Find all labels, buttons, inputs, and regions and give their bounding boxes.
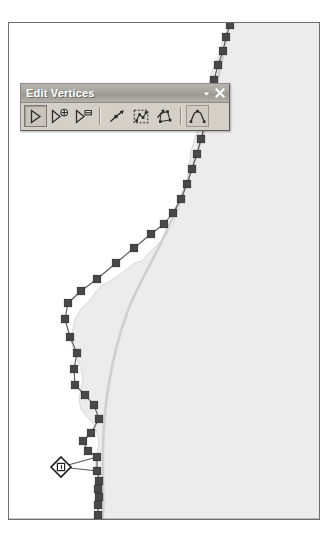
vertex-handle[interactable] bbox=[193, 150, 200, 157]
toolbar-title: Edit Vertices bbox=[26, 84, 199, 102]
vertex-handle[interactable] bbox=[95, 477, 102, 484]
add-vertex-button[interactable] bbox=[48, 105, 71, 127]
vertex-handle[interactable] bbox=[95, 493, 102, 500]
close-icon[interactable] bbox=[213, 86, 227, 100]
delete-selected-vertices-button[interactable] bbox=[153, 105, 176, 127]
arrow-plus-icon bbox=[50, 108, 69, 125]
edit-vertices-toolbar[interactable]: Edit Vertices bbox=[20, 83, 230, 131]
vertex-handle[interactable] bbox=[79, 437, 86, 444]
vertex-handle[interactable] bbox=[73, 349, 80, 356]
delete-vertex-button[interactable] bbox=[72, 105, 95, 127]
vertex-handle[interactable] bbox=[222, 33, 229, 40]
delete-selected-vertices-icon bbox=[156, 108, 174, 125]
vertex-handle[interactable] bbox=[160, 220, 167, 227]
vertex-handle[interactable] bbox=[94, 501, 101, 508]
arrow-cursor-icon bbox=[27, 108, 44, 125]
vertex-handle[interactable] bbox=[95, 415, 102, 422]
vertex-handle[interactable] bbox=[188, 165, 195, 172]
vertex-handle[interactable] bbox=[77, 287, 84, 294]
chevron-down-icon[interactable] bbox=[199, 86, 213, 100]
vertex-handle[interactable] bbox=[64, 299, 71, 306]
vertex-handle[interactable] bbox=[71, 381, 78, 388]
modify-sketch-vertices-button[interactable] bbox=[24, 105, 47, 127]
toolbar-button-row bbox=[21, 103, 229, 130]
toolbar-titlebar[interactable]: Edit Vertices bbox=[21, 84, 229, 103]
vertex-handle[interactable] bbox=[84, 447, 91, 454]
map-frame: Edit Vertices bbox=[8, 22, 320, 520]
vertex-handle[interactable] bbox=[169, 209, 176, 216]
vertex-handle[interactable] bbox=[66, 333, 73, 340]
vertex-handle[interactable] bbox=[70, 365, 77, 372]
vertex-handle[interactable] bbox=[90, 401, 97, 408]
vertex-handle[interactable] bbox=[219, 47, 226, 54]
vertex-handle[interactable] bbox=[197, 135, 204, 142]
vertex-handle[interactable] bbox=[94, 511, 101, 518]
vertex-handle[interactable] bbox=[130, 244, 137, 251]
sketch-properties-button[interactable] bbox=[186, 105, 209, 127]
vertex-handle[interactable] bbox=[93, 467, 100, 474]
vertex-handle[interactable] bbox=[214, 61, 221, 68]
vertex-handle[interactable] bbox=[93, 275, 100, 282]
vertex-handle[interactable] bbox=[112, 259, 119, 266]
vertex-handle[interactable] bbox=[183, 180, 190, 187]
select-vertices-box-button[interactable] bbox=[129, 105, 152, 127]
toolbar-separator bbox=[180, 107, 182, 125]
vertex-handle[interactable] bbox=[147, 230, 154, 237]
arrow-minus-icon bbox=[74, 108, 93, 125]
vertex-handle[interactable] bbox=[93, 453, 100, 460]
selected-vertex-handle[interactable] bbox=[51, 457, 71, 477]
sketch-properties-icon bbox=[189, 109, 206, 124]
vertex-handle[interactable] bbox=[81, 391, 88, 398]
continue-line-icon bbox=[108, 108, 126, 125]
vertex-handle[interactable] bbox=[87, 429, 94, 436]
vertex-handle[interactable] bbox=[177, 195, 184, 202]
vertex-handle[interactable] bbox=[94, 485, 101, 492]
marquee-vertices-icon bbox=[132, 108, 150, 125]
vertex-handle[interactable] bbox=[61, 315, 68, 322]
toolbar-separator bbox=[99, 107, 101, 125]
continue-feature-button[interactable] bbox=[105, 105, 128, 127]
vertex-handle[interactable] bbox=[226, 23, 233, 29]
